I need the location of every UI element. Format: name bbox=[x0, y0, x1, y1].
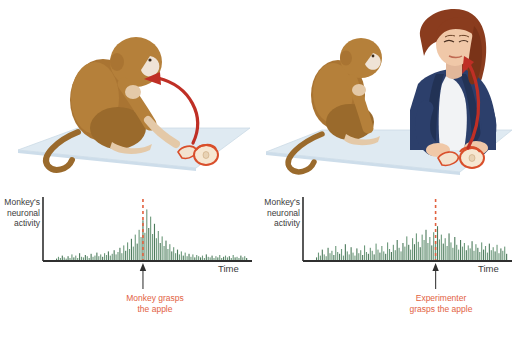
spike-bar bbox=[71, 254, 72, 261]
spike-bar bbox=[448, 233, 449, 261]
spike-bar bbox=[433, 232, 434, 261]
spike-bar bbox=[171, 251, 172, 261]
spike-bar bbox=[352, 253, 353, 261]
spike-bar bbox=[356, 248, 357, 261]
spike-bar bbox=[173, 247, 174, 261]
spike-bar bbox=[137, 244, 138, 261]
event-caption-right: Experimenter grasps the apple bbox=[382, 293, 500, 314]
spike-bar bbox=[450, 242, 451, 261]
spike-bar bbox=[452, 248, 453, 261]
spike-bar bbox=[364, 245, 365, 261]
spike-bar bbox=[462, 247, 463, 261]
spike-bar bbox=[96, 253, 97, 261]
spike-bar bbox=[397, 240, 398, 261]
spike-bar bbox=[418, 242, 419, 261]
spike-bar bbox=[416, 233, 417, 261]
spike-bar bbox=[162, 236, 163, 261]
spike-bar bbox=[165, 241, 166, 261]
spike-bar bbox=[146, 209, 147, 261]
spike-bar bbox=[179, 254, 180, 261]
spike-bar bbox=[337, 252, 338, 261]
spike-bar bbox=[169, 244, 170, 261]
spike-histogram-left bbox=[56, 209, 247, 261]
spike-bar bbox=[493, 247, 494, 261]
spike-bar bbox=[135, 235, 136, 261]
spike-bar bbox=[495, 251, 496, 261]
spike-bar bbox=[477, 248, 478, 261]
spike-bar bbox=[429, 237, 430, 261]
spike-bar bbox=[150, 217, 151, 261]
spike-bar bbox=[456, 245, 457, 261]
spike-bar bbox=[481, 242, 482, 261]
spike-bar bbox=[345, 244, 346, 261]
spike-bar bbox=[406, 236, 407, 261]
spike-bar bbox=[500, 248, 501, 261]
event-marker-arrow-right bbox=[432, 263, 438, 289]
spike-bar bbox=[148, 228, 149, 261]
spike-bar bbox=[491, 250, 492, 261]
spike-bar bbox=[158, 231, 159, 261]
spike-bar bbox=[379, 253, 380, 261]
spike-bar bbox=[443, 244, 444, 261]
spike-bar bbox=[506, 254, 507, 261]
spike-bar bbox=[404, 247, 405, 261]
spike-bar bbox=[422, 235, 423, 261]
spike-bar bbox=[487, 253, 488, 261]
spike-bar bbox=[399, 248, 400, 261]
x-axis-label-left: Time bbox=[218, 263, 239, 274]
spike-bar bbox=[104, 253, 105, 261]
spike-bar bbox=[454, 237, 455, 261]
spike-bar bbox=[322, 250, 323, 261]
spike-bar bbox=[447, 246, 448, 261]
spike-bar bbox=[479, 252, 480, 261]
spike-bar bbox=[437, 226, 438, 261]
spike-bar bbox=[458, 250, 459, 261]
spike-bar bbox=[483, 250, 484, 261]
spike-bar bbox=[140, 237, 141, 261]
spike-bar bbox=[91, 254, 92, 261]
spike-bar bbox=[408, 245, 409, 261]
spike-bar bbox=[431, 245, 432, 261]
spike-histogram-right bbox=[316, 226, 507, 261]
spike-bar bbox=[412, 238, 413, 261]
spike-bar bbox=[420, 247, 421, 261]
spike-bar bbox=[324, 254, 325, 261]
spike-bar bbox=[156, 238, 157, 261]
spike-bar bbox=[360, 250, 361, 261]
spike-bar bbox=[131, 239, 132, 261]
spike-bar bbox=[154, 224, 155, 261]
spike-bar bbox=[464, 243, 465, 261]
spike-bar bbox=[385, 254, 386, 261]
spike-bar bbox=[351, 247, 352, 261]
spike-bar bbox=[496, 245, 497, 261]
spike-bar bbox=[185, 253, 186, 261]
chart-observed-action: Monkey's neuronal activity Time Experime… bbox=[260, 185, 519, 337]
spike-bar bbox=[144, 233, 145, 261]
spike-bar bbox=[381, 246, 382, 261]
spike-bar bbox=[129, 249, 130, 261]
experimenter-figure bbox=[410, 9, 496, 157]
spike-bar bbox=[445, 238, 446, 261]
spike-bar bbox=[331, 251, 332, 261]
spike-bar bbox=[133, 247, 134, 261]
spike-bar bbox=[366, 252, 367, 261]
spike-bar bbox=[177, 250, 178, 261]
spike-bar bbox=[121, 253, 122, 261]
spike-bar bbox=[473, 251, 474, 261]
spike-bar bbox=[112, 254, 113, 261]
event-caption-left: Monkey grasps the apple bbox=[100, 293, 210, 314]
spike-bar bbox=[79, 253, 80, 261]
spike-bar bbox=[188, 254, 189, 261]
panel-observed-action: Monkey's neuronal activity Time Experime… bbox=[260, 0, 519, 337]
spike-bar bbox=[410, 250, 411, 261]
spike-bar bbox=[395, 250, 396, 261]
spike-bar bbox=[370, 248, 371, 261]
spike-bar bbox=[328, 248, 329, 261]
spike-bar bbox=[329, 253, 330, 261]
spike-bar bbox=[127, 242, 128, 261]
spike-bar bbox=[341, 249, 342, 261]
spike-bar bbox=[349, 254, 350, 261]
spike-bar bbox=[108, 251, 109, 261]
spike-bar bbox=[485, 246, 486, 261]
x-axis-label-right: Time bbox=[478, 263, 499, 274]
